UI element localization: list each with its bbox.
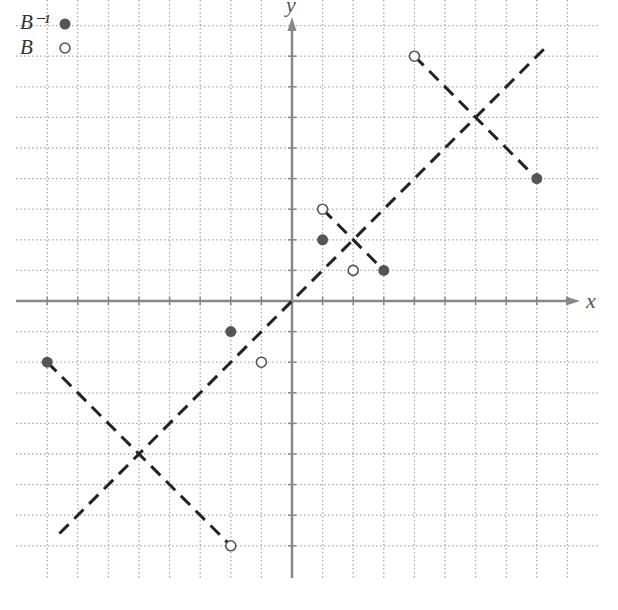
open-circle-icon: [318, 204, 328, 214]
filled-circle-icon: [42, 357, 53, 368]
filled-circle-icon: [531, 173, 542, 184]
open-circle-icon: [348, 265, 358, 275]
legend-label-inverse: B⁻¹: [20, 10, 50, 35]
legend-filled-circle-icon: [60, 19, 71, 30]
axes: [16, 17, 580, 578]
legend-label-original: B: [20, 35, 33, 60]
y-axis-label: y: [286, 0, 296, 18]
filled-circle-icon: [317, 234, 328, 245]
legend-open-circle-icon: [60, 43, 70, 53]
open-circle-icon: [409, 51, 419, 61]
filled-circle-icon: [378, 265, 389, 276]
coordinate-plane: [0, 0, 618, 610]
filled-circle-icon: [225, 326, 236, 337]
grid-lines: [16, 0, 600, 578]
x-axis-label: x: [586, 288, 596, 314]
y-axis-arrow-icon: [288, 17, 297, 31]
open-circle-icon: [256, 357, 266, 367]
dashed-lines: [47, 44, 549, 546]
open-circle-icon: [226, 541, 236, 551]
legend-markers: [60, 19, 71, 54]
